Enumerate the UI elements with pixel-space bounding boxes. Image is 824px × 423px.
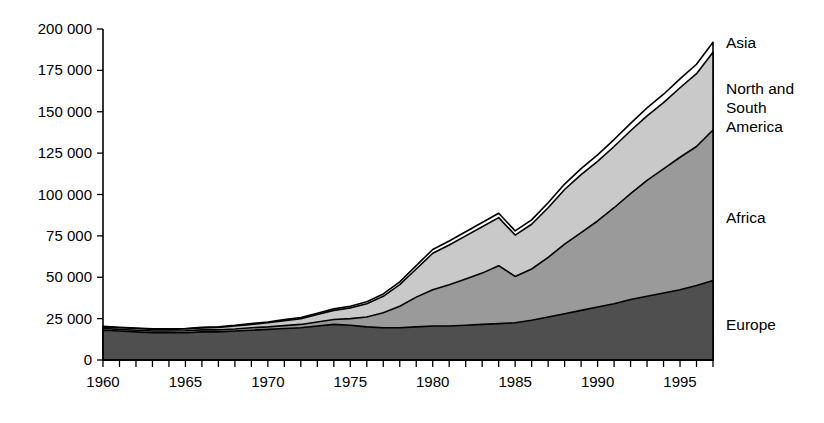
y-tick-label: 150 000 xyxy=(38,103,92,120)
x-tick-label: 1975 xyxy=(334,373,367,390)
x-tick-label: 1985 xyxy=(498,373,531,390)
series-label-africa: Africa xyxy=(726,209,766,226)
x-tick-label: 1970 xyxy=(251,373,284,390)
y-tick-label: 200 000 xyxy=(38,20,92,37)
stacked-area-chart: 025 00050 00075 000100 000125 000150 000… xyxy=(0,0,824,423)
series-label-north-and-south-america: North andSouthAmerica xyxy=(726,80,794,135)
x-tick-label: 1980 xyxy=(416,373,449,390)
y-tick-label: 75 000 xyxy=(46,227,92,244)
series-labels: AsiaNorth andSouthAmericaAfricaEurope xyxy=(726,34,794,333)
y-tick-label: 0 xyxy=(84,351,92,368)
x-tick-label: 1990 xyxy=(581,373,614,390)
y-tick-label: 25 000 xyxy=(46,310,92,327)
y-tick-label: 125 000 xyxy=(38,144,92,161)
y-tick-label: 50 000 xyxy=(46,268,92,285)
x-tick-label: 1960 xyxy=(86,373,119,390)
chart-figure: 025 00050 00075 000100 000125 000150 000… xyxy=(0,0,824,423)
y-axis-tick-labels: 025 00050 00075 000100 000125 000150 000… xyxy=(38,20,92,368)
area-series-group xyxy=(103,42,713,360)
x-tick-label: 1995 xyxy=(663,373,696,390)
y-tick-label: 100 000 xyxy=(38,186,92,203)
y-axis-ticks xyxy=(97,29,103,360)
series-label-asia: Asia xyxy=(726,34,757,51)
x-axis-ticks xyxy=(103,360,713,367)
series-label-europe: Europe xyxy=(726,316,776,333)
x-tick-label: 1965 xyxy=(169,373,202,390)
x-axis-tick-labels: 19601965197019751980198519901995 xyxy=(86,373,696,390)
y-tick-label: 175 000 xyxy=(38,61,92,78)
